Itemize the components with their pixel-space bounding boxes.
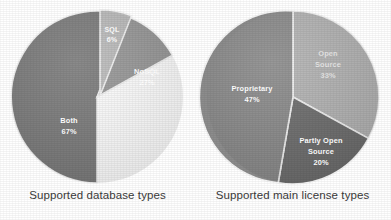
pie-label-open-source-line2: Source	[315, 60, 341, 69]
pie-label-partly-open-source-percent: 20%	[313, 158, 329, 167]
pie-label-nosql-name: NoSQL	[134, 67, 160, 76]
pie-label-proprietary-percent: 47%	[244, 95, 260, 104]
pie-label-proprietary-line1: Proprietary	[231, 84, 273, 93]
pie-label-sql-percent: 6%	[107, 36, 118, 44]
pie-label-both-percent: 67%	[61, 127, 77, 136]
pie-chart-database-types: SQL 6% NoSQL 27% Both 67%	[0, 0, 195, 190]
chart-panel-database-types: SQL 6% NoSQL 27% Both 67% Supported data…	[0, 0, 195, 220]
pie-label-nosql: NoSQL 27%	[134, 67, 160, 87]
pie-label-both-name: Both	[60, 116, 78, 125]
pie-label-partly-open-source-line2: Source	[308, 147, 334, 156]
pie-chart-figure: SQL 6% NoSQL 27% Both 67% Supported data…	[0, 0, 391, 220]
pie-label-sql-name: SQL	[104, 26, 120, 34]
chart-panel-license-types: Open Source 33% Partly Open Source 20% P…	[195, 0, 390, 220]
chart-caption-license-types: Supported main license types	[195, 189, 390, 201]
pie-chart-license-types: Open Source 33% Partly Open Source 20% P…	[195, 0, 390, 190]
pie-label-partly-open-source-line1: Partly Open	[299, 136, 342, 145]
chart-caption-database-types: Supported database types	[0, 189, 195, 201]
pie-label-open-source-percent: 33%	[320, 71, 336, 80]
pie-label-open-source-line1: Open	[318, 49, 338, 58]
pie-label-nosql-percent: 27%	[139, 78, 155, 87]
